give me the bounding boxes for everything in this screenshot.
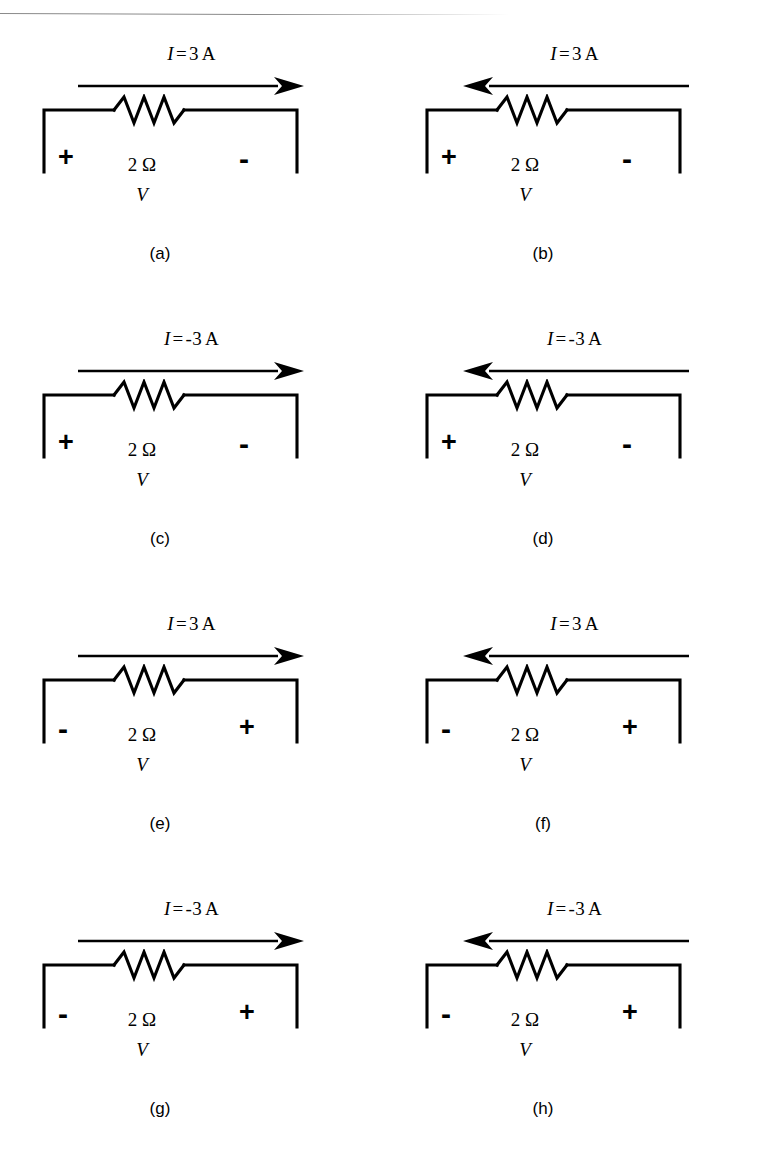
current-symbol: I (550, 613, 557, 634)
panel-caption: (h) (383, 1100, 703, 1117)
voltage-label: V (0, 470, 284, 489)
equals-sign: = (554, 328, 569, 349)
current-symbol: I (547, 328, 554, 349)
current-symbol: I (164, 328, 171, 349)
equals-sign: = (554, 898, 569, 919)
current-unit: A (585, 898, 602, 919)
current-symbol: I (167, 43, 174, 64)
current-value: 3 (572, 613, 582, 634)
equals-sign: = (174, 613, 189, 634)
current-value: -3 (569, 898, 585, 919)
voltage-label: V (383, 185, 667, 204)
equals-sign: = (171, 328, 186, 349)
circuit-panel-h: I=-3A-+2 ΩV(h) (383, 883, 766, 1166)
current-symbol: I (164, 898, 171, 919)
voltage-label: V (0, 1040, 284, 1059)
circuit-panel-f: I=3A-+2 ΩV(f) (383, 598, 766, 883)
voltage-label: V (383, 1040, 667, 1059)
current-label: I=-3A (383, 899, 766, 918)
current-value: 3 (572, 43, 582, 64)
current-value: -3 (186, 898, 202, 919)
voltage-label: V (0, 755, 284, 774)
rule-line (0, 13, 766, 15)
voltage-label: V (0, 185, 284, 204)
current-value: -3 (186, 328, 202, 349)
circuit-panel-e: I=3A-+2 ΩV(e) (0, 598, 383, 883)
current-label: I=-3A (0, 899, 383, 918)
current-label: I=3A (0, 614, 383, 633)
panel-caption: (g) (0, 1100, 320, 1117)
voltage-label: V (383, 470, 667, 489)
equals-sign: = (557, 613, 572, 634)
equals-sign: = (557, 43, 572, 64)
circuit-panel-d: I=-3A+-2 ΩV(d) (383, 313, 766, 598)
resistance-label: 2 Ω (383, 155, 667, 174)
resistance-label: 2 Ω (0, 725, 284, 744)
panel-caption: (e) (0, 815, 320, 832)
current-unit: A (199, 43, 216, 64)
current-label: I=3A (0, 44, 383, 63)
current-label: I=-3A (0, 329, 383, 348)
panel-caption: (a) (0, 245, 320, 262)
circuit-panel-a: I=3A+-2 ΩV(a) (0, 28, 383, 313)
current-label: I=-3A (383, 329, 766, 348)
current-value: 3 (189, 613, 199, 634)
current-unit: A (582, 613, 599, 634)
circuit-panel-b: I=3A+-2 ΩV(b) (383, 28, 766, 313)
equals-sign: = (174, 43, 189, 64)
resistance-label: 2 Ω (383, 725, 667, 744)
current-unit: A (202, 328, 219, 349)
resistance-label: 2 Ω (383, 440, 667, 459)
circuit-panel-g: I=-3A-+2 ΩV(g) (0, 883, 383, 1166)
top-horizontal-rule (0, 13, 766, 15)
panel-caption: (b) (383, 245, 703, 262)
resistance-label: 2 Ω (0, 1010, 284, 1029)
panel-caption: (c) (0, 530, 320, 547)
panel-caption: (f) (383, 815, 703, 832)
resistance-label: 2 Ω (0, 155, 284, 174)
current-symbol: I (547, 898, 554, 919)
circuit-panel-c: I=-3A+-2 ΩV(c) (0, 313, 383, 598)
resistance-label: 2 Ω (383, 1010, 667, 1029)
voltage-label: V (383, 755, 667, 774)
current-unit: A (199, 613, 216, 634)
current-unit: A (585, 328, 602, 349)
current-label: I=3A (383, 44, 766, 63)
panel-caption: (d) (383, 530, 703, 547)
current-value: -3 (569, 328, 585, 349)
current-symbol: I (167, 613, 174, 634)
current-unit: A (582, 43, 599, 64)
equals-sign: = (171, 898, 186, 919)
current-unit: A (202, 898, 219, 919)
current-value: 3 (189, 43, 199, 64)
resistance-label: 2 Ω (0, 440, 284, 459)
circuit-panel-grid: I=3A+-2 ΩV(a)I=3A+-2 ΩV(b)I=-3A+-2 ΩV(c)… (0, 28, 766, 1166)
current-label: I=3A (383, 614, 766, 633)
current-symbol: I (550, 43, 557, 64)
